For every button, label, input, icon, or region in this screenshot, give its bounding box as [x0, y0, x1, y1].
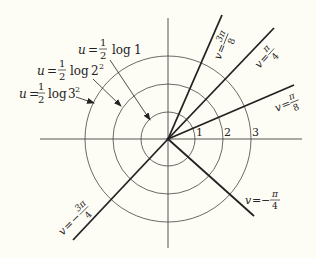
svg-text:2: 2: [38, 94, 44, 105]
polar-level-curves-diagram: 1 2 3 u = 1 2 log 1 u = 1 2 log 2 2 u = …: [0, 0, 316, 258]
svg-text:u: u: [78, 43, 86, 57]
svg-text:=: =: [252, 194, 261, 207]
svg-text:1: 1: [38, 81, 44, 92]
svg-text:π: π: [271, 189, 279, 199]
arrow-to-circle-r1: [110, 60, 150, 120]
svg-text:log: log: [112, 43, 131, 57]
svg-text:8: 8: [226, 37, 238, 46]
label-u-half-log-1: u = 1 2 log 1: [78, 37, 142, 61]
label-u-half-log-2-squared: u = 1 2 log 2 2: [37, 58, 104, 82]
svg-text:1: 1: [100, 37, 106, 48]
label-v-minus-3pi-over-4: v = − 3π 4: [53, 197, 97, 241]
svg-text:u: u: [37, 64, 45, 78]
tick-label-1: 1: [196, 126, 203, 139]
svg-text:8: 8: [292, 101, 301, 113]
label-v-3pi-over-8: v = 3π 8: [207, 28, 239, 64]
svg-text:2: 2: [59, 71, 65, 82]
svg-text:−: −: [261, 194, 270, 207]
label-v-pi-over-8: v = π 8: [271, 90, 302, 120]
tick-label-2: 2: [224, 126, 231, 139]
ray-3pi-over-8: [168, 15, 222, 139]
svg-text:1: 1: [134, 43, 142, 57]
label-v-minus-pi-over-4: v = − π 4: [245, 189, 280, 211]
svg-text:=: =: [88, 43, 98, 57]
label-v-pi-over-4: v = π 4: [249, 41, 282, 74]
tick-label-3: 3: [252, 126, 259, 139]
svg-text:log: log: [48, 87, 67, 101]
arrow-to-circle-r3: [76, 97, 94, 103]
origin-point: [166, 137, 169, 140]
svg-text:=: =: [47, 64, 57, 78]
svg-text:v: v: [245, 194, 252, 207]
ray-minus-3pi-over-4: [73, 139, 168, 240]
svg-text:2: 2: [100, 50, 106, 61]
svg-text:log: log: [70, 64, 89, 78]
svg-text:1: 1: [59, 58, 65, 69]
svg-text:2: 2: [91, 64, 99, 78]
ray-pi-over-8: [168, 85, 294, 139]
svg-text:u: u: [19, 87, 27, 101]
svg-text:2: 2: [75, 85, 80, 94]
svg-text:2: 2: [99, 62, 104, 71]
label-u-half-log-3-squared: u = 1 2 log 3 2: [19, 81, 80, 105]
svg-text:4: 4: [272, 201, 278, 211]
